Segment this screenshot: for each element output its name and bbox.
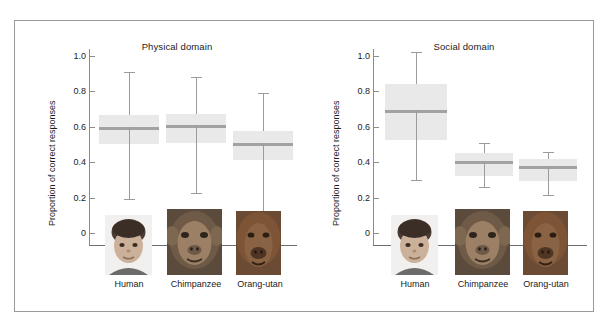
y-tick-label-0-6: 0.6 (340, 122, 370, 132)
whisker-cap-lower (124, 199, 135, 200)
species-label-orangutan: Orang-utan (514, 279, 578, 289)
photo-chimpanzee (455, 209, 510, 275)
y-tick-1-0 (90, 56, 95, 57)
whisker-cap-lower (191, 193, 202, 194)
y-tick-label-1-0: 1.0 (340, 51, 370, 61)
y-axis-line (373, 49, 374, 245)
photo-orangutan (236, 211, 281, 275)
y-tick-label-1-0: 1.0 (56, 51, 86, 61)
whisker-line-lower (548, 166, 549, 195)
y-tick-label-0-2: 0.2 (340, 193, 370, 203)
whisker-cap-lower (411, 180, 422, 181)
y-tick-label-0-6: 0.6 (56, 122, 86, 132)
y-tick-label-0: 0 (340, 228, 370, 238)
photo-orangutan (523, 211, 568, 275)
y-tick-0-2 (90, 198, 95, 199)
species-label-human: Human (99, 279, 159, 289)
y-tick-label-0-2: 0.2 (56, 193, 86, 203)
y-axis-line (89, 49, 90, 245)
y-tick-label-0-4: 0.4 (340, 157, 370, 167)
y-tick-0-2 (374, 198, 379, 199)
boxplot-physical-human (99, 21, 159, 245)
figure-frame: Physical domain Proportion of correct re… (14, 20, 594, 312)
panel-physical-domain: Physical domain Proportion of correct re… (15, 21, 305, 313)
photo-human (391, 215, 438, 275)
whisker-cap-lower (479, 187, 490, 188)
whisker-cap-lower (543, 195, 554, 196)
y-tick-label-0-8: 0.8 (340, 86, 370, 96)
y-tick-label-0-4: 0.4 (56, 157, 86, 167)
species-label-orangutan: Orang-utan (228, 279, 292, 289)
figure-root: Physical domain Proportion of correct re… (0, 0, 609, 329)
species-label-chimpanzee: Chimpanzee (164, 279, 228, 289)
y-tick-label-0-8: 0.8 (56, 86, 86, 96)
panel-social-domain: Social domain Proportion of correct resp… (305, 21, 595, 313)
whisker-line-lower (484, 161, 485, 187)
y-tick-0 (374, 233, 379, 234)
y-tick-0-8 (90, 91, 95, 92)
y-tick-label-0: 0 (56, 228, 86, 238)
y-tick-1-0 (374, 56, 379, 57)
y-tick-0-4 (90, 162, 95, 163)
whisker-line-lower (129, 127, 130, 199)
species-label-chimpanzee: Chimpanzee (451, 279, 515, 289)
photo-chimpanzee (167, 209, 222, 275)
y-tick-0-8 (374, 91, 379, 92)
y-tick-0-4 (374, 162, 379, 163)
species-label-human: Human (385, 279, 445, 289)
boxplot-social-human (385, 21, 447, 245)
whisker-line-lower (416, 110, 417, 180)
whisker-line-lower (196, 125, 197, 193)
whisker-line-lower (263, 143, 264, 215)
y-tick-0-6 (90, 127, 95, 128)
y-tick-0 (90, 233, 95, 234)
y-tick-0-6 (374, 127, 379, 128)
photo-human (105, 215, 152, 275)
